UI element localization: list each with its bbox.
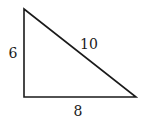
triangle-diagram: 6 10 8 xyxy=(0,0,143,120)
right-triangle xyxy=(24,9,136,97)
side-label-hypotenuse: 10 xyxy=(80,36,98,52)
side-label-base: 8 xyxy=(74,103,83,119)
side-label-vertical: 6 xyxy=(9,45,18,61)
